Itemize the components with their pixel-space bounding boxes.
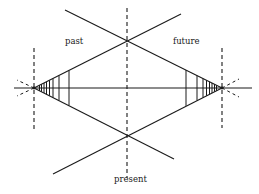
diagonal-upper-right-to-left-apex bbox=[34, 14, 181, 88]
time-cone-diagram: past future present bbox=[0, 0, 259, 194]
right-apex-point bbox=[221, 87, 224, 90]
label-past: past bbox=[65, 36, 84, 46]
label-future: future bbox=[173, 36, 200, 46]
label-present: present bbox=[114, 174, 147, 184]
diagonal-upper-left-to-right-apex bbox=[65, 10, 222, 88]
diagonal-right-apex-to-lower-left bbox=[53, 88, 222, 174]
left-apex-point bbox=[33, 87, 36, 90]
